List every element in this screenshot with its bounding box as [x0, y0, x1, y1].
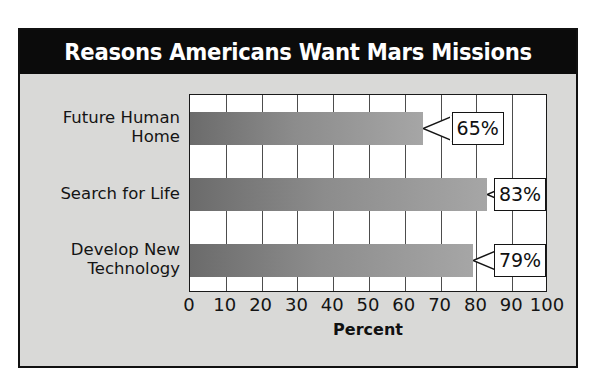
x-tick-label: 40 — [321, 294, 344, 315]
x-axis-title: Percent — [189, 320, 547, 339]
data-label-callout: 83% — [494, 178, 546, 211]
x-tick-label: 100 — [530, 294, 564, 315]
category-label: Future HumanHome — [20, 108, 180, 146]
callout-tail — [423, 112, 453, 145]
x-tick-label: 10 — [213, 294, 236, 315]
bar — [190, 178, 487, 211]
category-label: Develop NewTechnology — [20, 240, 180, 278]
x-tick-label: 90 — [500, 294, 523, 315]
bar — [190, 112, 423, 145]
x-axis-tick-labels: 0102030405060708090100 — [189, 294, 547, 318]
chart-panel: Reasons Americans Want Mars Missions Fut… — [18, 28, 578, 368]
chart-title-bar: Reasons Americans Want Mars Missions — [20, 30, 576, 74]
x-tick-label: 80 — [464, 294, 487, 315]
x-tick-label: 20 — [249, 294, 272, 315]
x-tick-label: 70 — [428, 294, 451, 315]
chart-body: Future HumanHomeSearch for LifeDevelop N… — [20, 74, 576, 366]
x-tick-label: 60 — [392, 294, 415, 315]
plot-area: 65%83%79% — [189, 94, 547, 292]
x-tick-label: 50 — [357, 294, 380, 315]
data-label-callout: 79% — [494, 244, 546, 277]
bar — [190, 244, 473, 277]
category-label: Search for Life — [20, 184, 180, 203]
x-tick-label: 30 — [285, 294, 308, 315]
x-tick-label: 0 — [183, 294, 194, 315]
category-axis-labels: Future HumanHomeSearch for LifeDevelop N… — [20, 94, 188, 292]
chart-title: Reasons Americans Want Mars Missions — [64, 39, 532, 65]
data-label-callout: 65% — [452, 112, 504, 145]
